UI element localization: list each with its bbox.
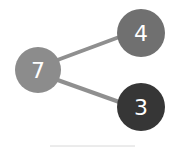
connector-whole-to-part-2: [52, 78, 122, 103]
whole-value: 7: [31, 58, 45, 83]
part-circle-1: 4: [117, 9, 165, 57]
part-2-value: 3: [134, 95, 148, 120]
whole-circle: 7: [15, 47, 61, 93]
part-circle-2: 3: [117, 83, 165, 131]
number-bond-diagram: 7 4 3: [0, 0, 173, 149]
part-1-value: 4: [134, 21, 148, 46]
connector-whole-to-part-1: [52, 36, 122, 62]
